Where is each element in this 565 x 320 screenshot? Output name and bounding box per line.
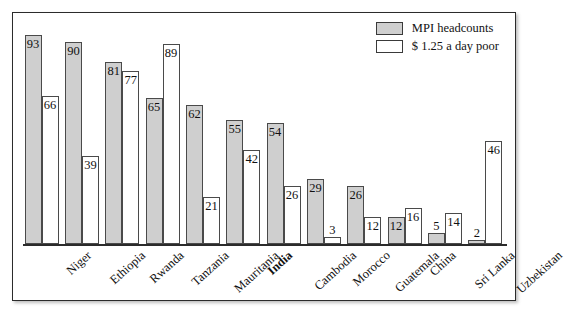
bar-niger-dollar: 66 [42, 96, 59, 245]
x-axis-label-sri-lanka: Sri Lanka [472, 249, 517, 291]
x-axis-baseline [23, 244, 507, 246]
bar-ethiopia-dollar: 39 [82, 156, 99, 244]
legend-label-mpi-headcounts: MPI headcounts [412, 22, 494, 35]
bar-group: 9039 [65, 19, 99, 244]
chart-legend: MPI headcounts $ 1.25 a day poor [376, 21, 499, 54]
bar-group: 6589 [146, 19, 180, 244]
legend-item-mpi-headcounts: MPI headcounts [376, 21, 499, 36]
bar-morocco-dollar: 3 [324, 237, 341, 244]
x-axis-label-niger: Niger [64, 249, 94, 278]
bar-cambodia-dollar: 26 [284, 186, 301, 245]
bar-rwanda-dollar: 77 [122, 71, 139, 244]
legend-swatch-mpi-headcounts [376, 22, 403, 35]
bar-value-label: 66 [43, 99, 58, 112]
bar-value-label: 89 [164, 47, 179, 60]
bar-cambodia-mpi: 54 [267, 123, 284, 245]
bar-india-mpi: 55 [226, 120, 243, 244]
bar-value-label: 12 [365, 220, 380, 233]
x-axis-labels: NigerEthiopiaRwandaTanzaniaMauritaniaInd… [23, 247, 507, 309]
bar-rwanda-mpi: 81 [105, 62, 122, 244]
legend-label-dollar-a-day-poor: $ 1.25 a day poor [412, 40, 499, 53]
bar-group: 293 [307, 19, 341, 244]
bar-guatemala-dollar: 12 [364, 217, 381, 244]
bar-mauritania-dollar: 21 [203, 197, 220, 244]
bar-value-label: 3 [325, 224, 340, 237]
bar-mauritania-mpi: 62 [186, 105, 203, 245]
x-axis-label-cambodia: Cambodia [312, 249, 359, 293]
bar-value-label: 46 [486, 144, 501, 157]
bar-value-label: 2 [469, 227, 484, 240]
bar-value-label: 77 [123, 74, 138, 87]
bar-india-dollar: 42 [243, 150, 260, 245]
bar-value-label: 26 [285, 189, 300, 202]
bar-morocco-mpi: 29 [307, 179, 324, 244]
bar-value-label: 5 [429, 220, 444, 233]
bar-group: 8177 [105, 19, 139, 244]
bar-value-label: 16 [406, 211, 421, 224]
x-axis-label-morocco: Morocco [350, 249, 392, 289]
bar-ethiopia-mpi: 90 [65, 42, 82, 245]
bar-china-mpi: 12 [388, 217, 405, 244]
bar-group: 5542 [226, 19, 260, 244]
bar-group: 5426 [267, 19, 301, 244]
bar-value-label: 14 [446, 216, 461, 229]
bar-uzbekistan-dollar: 46 [485, 141, 502, 245]
bar-value-label: 90 [66, 45, 81, 58]
bar-group: 6221 [186, 19, 220, 244]
bar-value-label: 55 [227, 123, 242, 136]
chart-frame: MPI headcounts $ 1.25 a day poor 9366903… [12, 12, 516, 301]
x-axis-label-tanzania: Tanzania [189, 249, 231, 289]
x-axis-label-ethiopia: Ethiopia [108, 249, 148, 287]
bar-value-label: 39 [83, 159, 98, 172]
bar-value-label: 65 [147, 101, 162, 114]
bar-group: 9366 [25, 19, 59, 244]
bar-guatemala-mpi: 26 [347, 186, 364, 245]
bar-tanzania-dollar: 89 [163, 44, 180, 244]
legend-item-dollar-a-day-poor: $ 1.25 a day poor [376, 39, 499, 54]
bar-value-label: 93 [26, 38, 41, 51]
x-axis-label-uzbekistan: Uzbekistan [515, 249, 565, 296]
bar-value-label: 54 [268, 126, 283, 139]
bar-value-label: 21 [204, 200, 219, 213]
bar-china-dollar: 16 [405, 208, 422, 244]
bar-sri-lanka-dollar: 14 [445, 213, 462, 245]
bar-value-label: 42 [244, 153, 259, 166]
bar-value-label: 12 [389, 220, 404, 233]
bar-value-label: 29 [308, 182, 323, 195]
legend-swatch-dollar-a-day-poor [376, 40, 403, 53]
x-axis-label-rwanda: Rwanda [148, 249, 187, 286]
bar-tanzania-mpi: 65 [146, 98, 163, 244]
bar-value-label: 62 [187, 108, 202, 121]
bar-sri-lanka-mpi: 5 [428, 233, 445, 244]
bar-value-label: 81 [106, 65, 121, 78]
bar-value-label: 26 [348, 189, 363, 202]
bar-niger-mpi: 93 [25, 35, 42, 244]
